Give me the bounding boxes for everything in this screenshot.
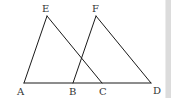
diagram-svg: A B C D E F: [0, 0, 171, 98]
segment-bf: [73, 16, 96, 83]
point-label-c: C: [99, 86, 107, 97]
right-edge-bar: [166, 0, 171, 98]
segment-ae: [24, 16, 47, 83]
point-label-f: F: [92, 3, 99, 14]
point-label-d: D: [153, 85, 161, 96]
geometry-diagram: A B C D E F: [0, 0, 171, 98]
segment-fd: [96, 16, 151, 83]
segment-ec: [47, 16, 102, 83]
point-label-b: B: [69, 86, 76, 97]
point-label-e: E: [42, 3, 49, 14]
point-label-a: A: [16, 86, 25, 97]
segments-group: [24, 16, 151, 83]
